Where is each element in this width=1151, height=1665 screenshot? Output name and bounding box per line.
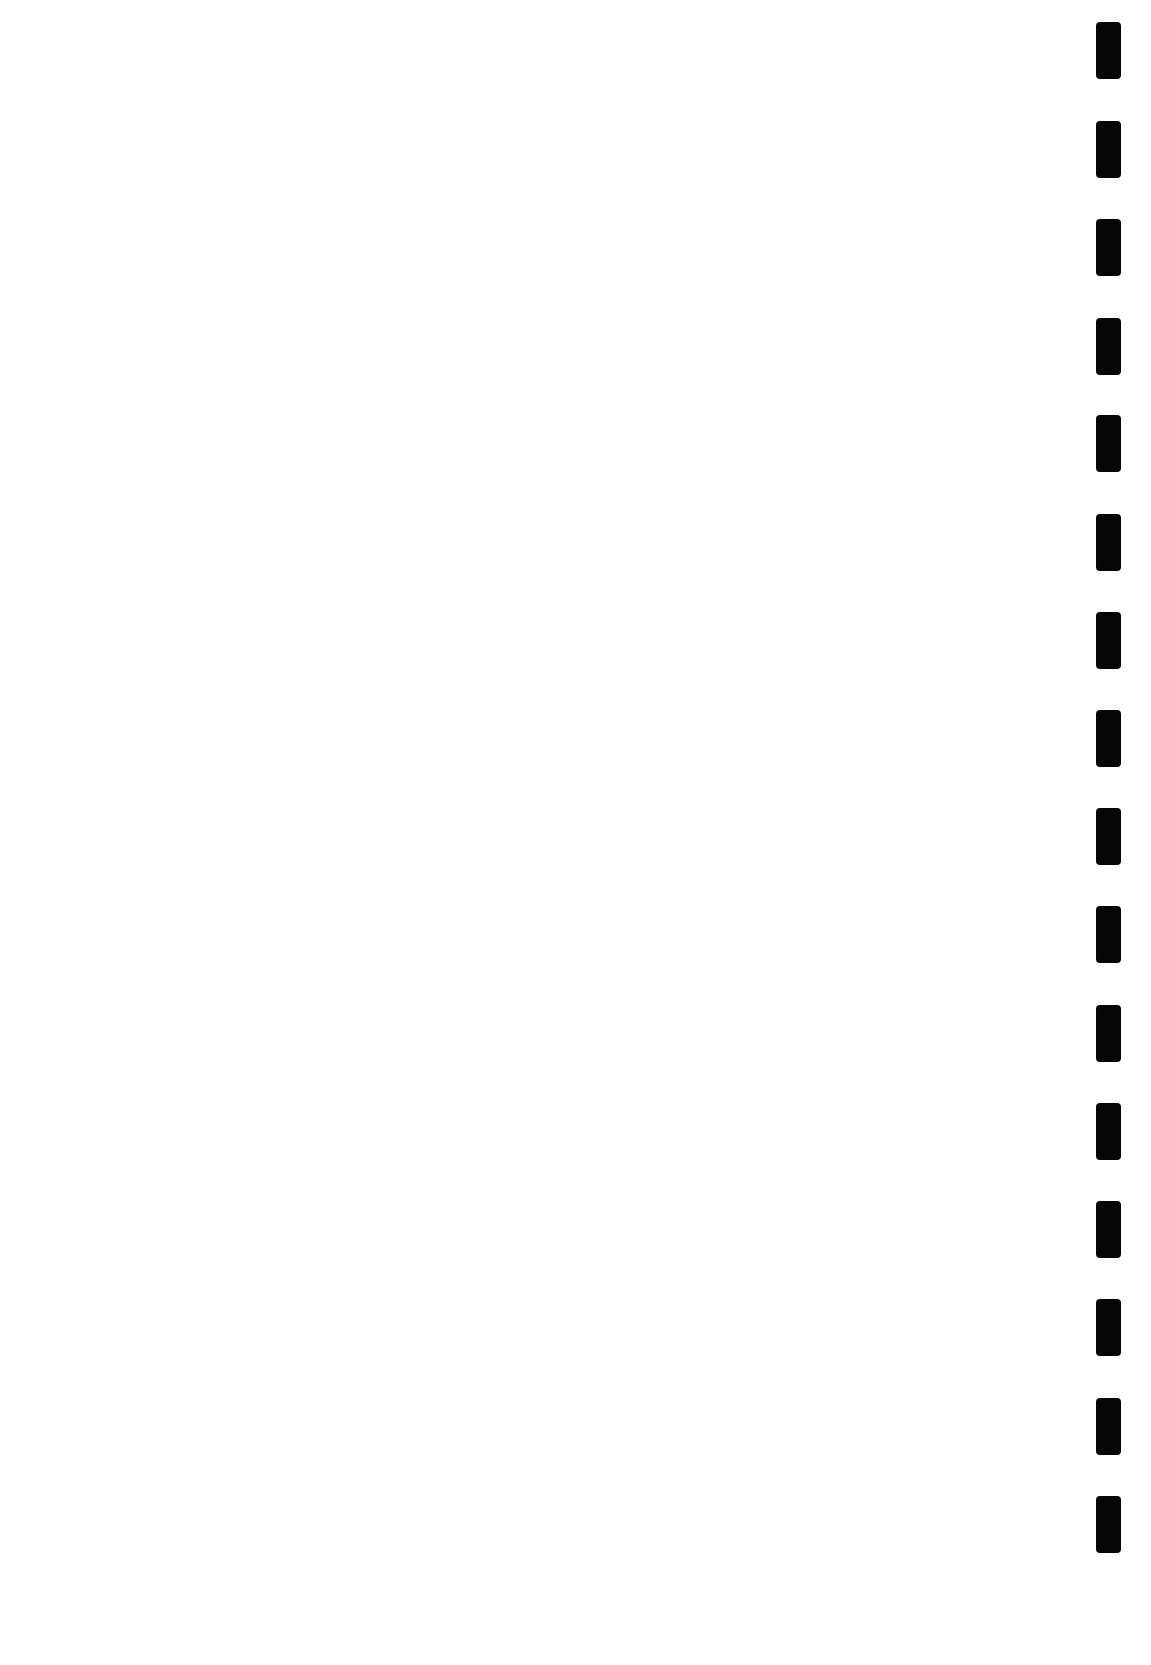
binding-hole-column <box>1096 0 1122 1665</box>
blank-page <box>0 0 1151 1665</box>
binding-hole-mark <box>1096 1005 1121 1062</box>
binding-hole-mark <box>1096 1201 1121 1258</box>
binding-hole-mark <box>1096 1398 1121 1455</box>
binding-hole-mark <box>1096 219 1121 276</box>
binding-hole-mark <box>1096 906 1121 963</box>
binding-hole-mark <box>1096 808 1121 865</box>
binding-hole-mark <box>1096 612 1121 669</box>
binding-hole-mark <box>1096 1496 1121 1553</box>
binding-hole-mark <box>1096 710 1121 767</box>
binding-hole-mark <box>1096 121 1121 178</box>
binding-hole-mark <box>1096 415 1121 472</box>
binding-hole-mark <box>1096 1299 1121 1356</box>
binding-hole-mark <box>1096 318 1121 375</box>
binding-hole-mark <box>1096 1103 1121 1160</box>
binding-hole-mark <box>1096 514 1121 571</box>
binding-hole-mark <box>1096 22 1121 79</box>
